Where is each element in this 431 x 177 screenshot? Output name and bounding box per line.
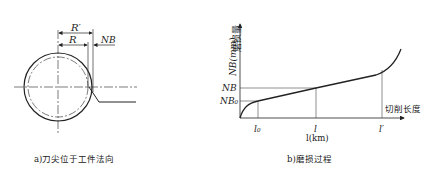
tool-tip-diagram: R′ R NB a)刀尖位于工件法向	[14, 22, 137, 164]
x-tick-l0: l₀	[254, 124, 261, 134]
wear-curve	[240, 49, 401, 118]
caption-a: a)刀尖位于工件法向	[34, 154, 114, 164]
caption-b: b)磨损过程	[287, 154, 332, 164]
x-tick-l-prime: l′	[379, 124, 384, 134]
wear-chart: 磨损量 NB(mm) NB NB₀ l₀ l l′ 切削长度 l(km) b)磨…	[219, 24, 421, 164]
r-label: R	[68, 34, 77, 45]
y-tick-nb0: NB₀	[219, 96, 238, 106]
figure-canvas: R′ R NB a)刀尖位于工件法向 磨损量 NB(mm) NB NB₀ l₀ …	[0, 0, 431, 177]
nb-label: NB	[100, 35, 116, 45]
y-axis-unit-label: NB(mm)	[228, 37, 238, 77]
x-axis-label: 切削长度	[385, 104, 421, 114]
y-tick-nb: NB	[221, 83, 237, 93]
x-axis-unit-label: l(km)	[306, 133, 329, 143]
tool-profile	[89, 87, 136, 102]
r-prime-label: R′	[70, 22, 82, 33]
